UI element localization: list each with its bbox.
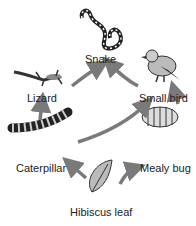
node-label-snake: Snake [85,53,116,65]
food-web-diagram [0,0,196,226]
lizard-icon [14,70,62,86]
snake-icon [82,11,121,49]
mealy-bug-icon [142,107,178,127]
node-label-small-bird: Small bird [139,92,188,104]
node-label-caterpillar: Caterpillar [16,162,66,174]
hibiscus-leaf-icon [89,160,112,192]
small-bird-icon [141,50,180,82]
node-label-lizard: Lizard [27,92,57,104]
node-label-hibiscus-leaf: Hibiscus leaf [70,206,132,218]
node-label-mealy-bug: Mealy bug [140,162,191,174]
